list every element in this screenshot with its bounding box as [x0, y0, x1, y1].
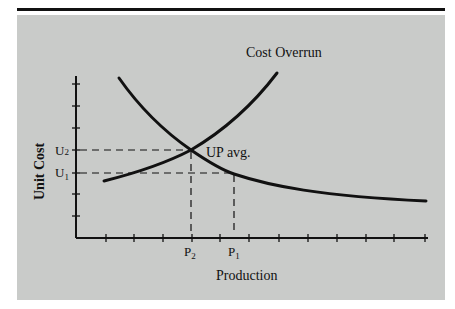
- p2-label: P2: [184, 244, 196, 261]
- p1-label: P1: [228, 244, 240, 261]
- chart-svg: Cost Overrun Unit Cost Production: [0, 0, 455, 309]
- x-axis-label: Production: [216, 268, 277, 283]
- y-axis-label: Unit Cost: [32, 142, 47, 200]
- average-cost-curve: [119, 78, 426, 201]
- u2-label: U2: [55, 143, 69, 158]
- chart-title: Cost Overrun: [246, 45, 322, 60]
- u1-label: U1: [55, 165, 69, 182]
- up-avg-label: UP avg.: [206, 145, 251, 160]
